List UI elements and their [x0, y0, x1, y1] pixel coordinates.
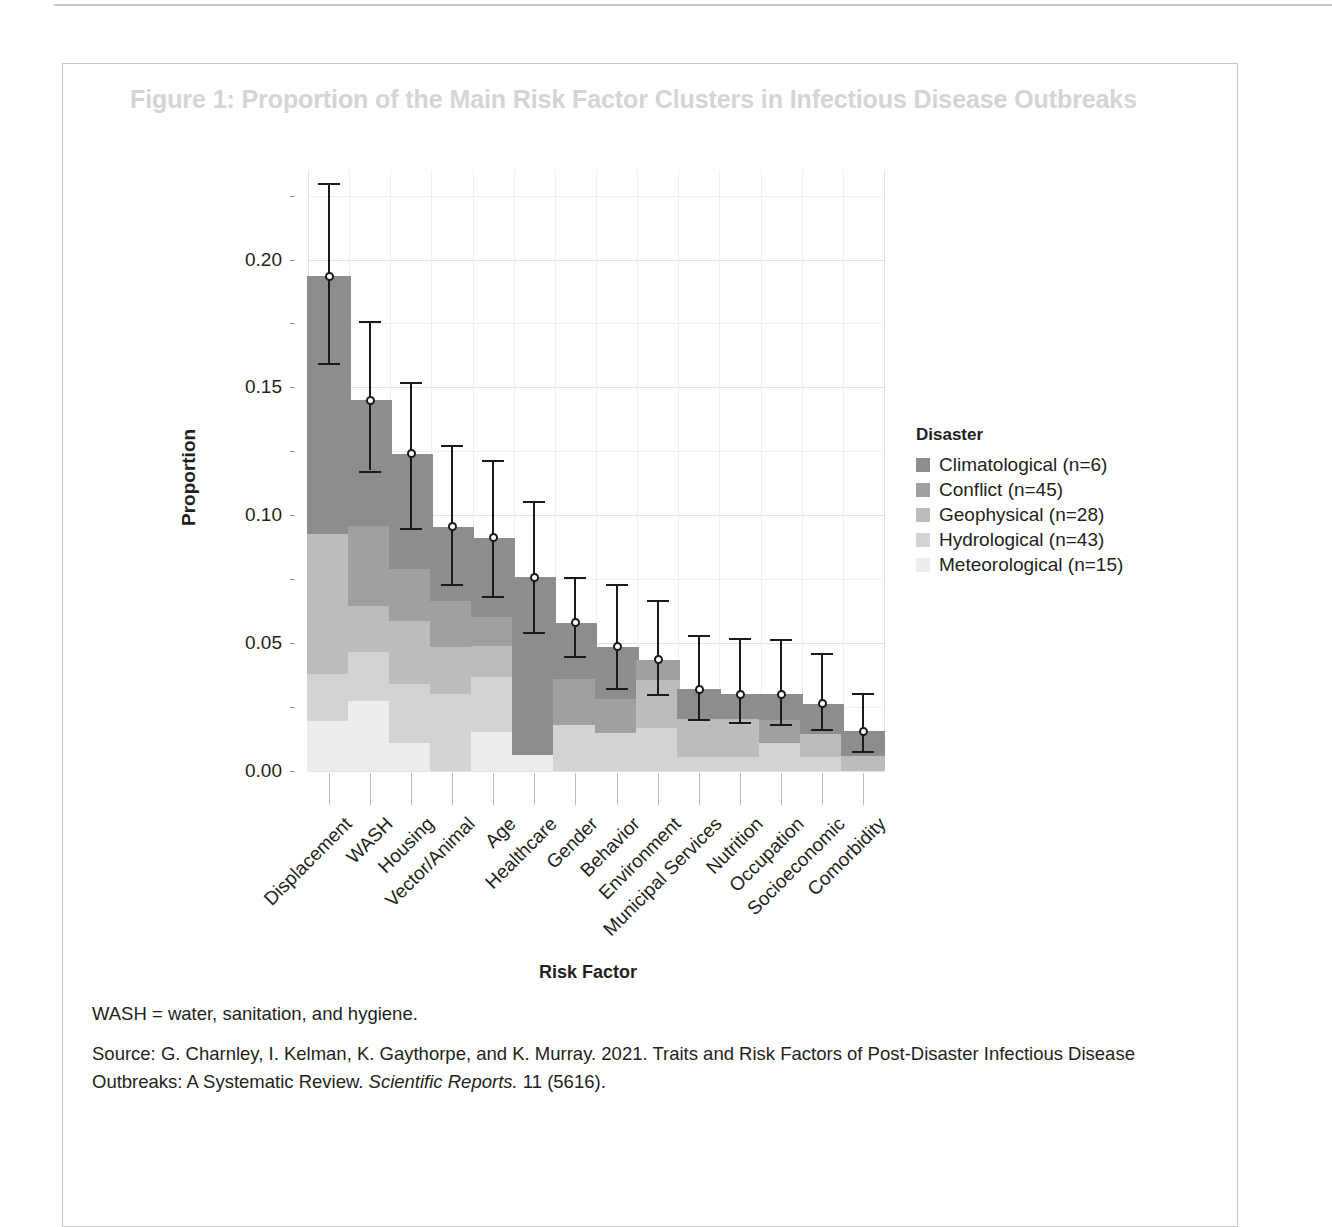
gridline-major — [308, 771, 884, 772]
y-axis-tick-mark — [290, 387, 295, 388]
x-axis-tick-mark — [822, 773, 823, 805]
bar-segment — [677, 719, 721, 757]
bar-segment — [307, 534, 351, 673]
x-axis-tick-mark — [658, 773, 659, 805]
data-point-marker — [489, 533, 498, 542]
legend-label: Meteorological (n=15) — [939, 554, 1123, 576]
bar-column[interactable] — [430, 170, 474, 771]
bar-segment — [471, 617, 515, 646]
bar-segment — [307, 721, 351, 771]
bar-segment — [471, 646, 515, 677]
bar-segment — [348, 606, 392, 652]
bar-segment — [430, 647, 474, 694]
error-bar-cap-upper — [811, 653, 833, 655]
y-axis-tick-mark — [290, 771, 295, 772]
bar-column[interactable] — [759, 170, 803, 771]
data-point-marker — [859, 727, 868, 736]
data-point-marker — [736, 690, 745, 699]
legend-item[interactable]: Conflict (n=45) — [916, 477, 1176, 502]
data-point-marker — [695, 685, 704, 694]
legend-swatch — [916, 508, 930, 522]
x-axis-tick-mark — [370, 773, 371, 805]
bar-column[interactable] — [841, 170, 885, 771]
bar-column[interactable] — [307, 170, 351, 771]
bar-segment — [800, 757, 844, 771]
legend-rows: Climatological (n=6)Conflict (n=45)Geoph… — [916, 452, 1176, 577]
legend-item[interactable]: Geophysical (n=28) — [916, 502, 1176, 527]
x-axis-tick-mark — [411, 773, 412, 805]
figure-notes: WASH = water, sanitation, and hygiene. S… — [92, 1000, 1182, 1108]
y-axis-tick-label: 0.05 — [212, 633, 282, 652]
source-journal: Scientific Reports. — [369, 1071, 518, 1092]
y-axis-tick-mark — [290, 707, 295, 708]
error-bar-cap-upper — [564, 577, 586, 579]
error-bar-cap-lower — [647, 694, 669, 696]
bar-column[interactable] — [800, 170, 844, 771]
legend-swatch — [916, 558, 930, 572]
y-axis-label: Proportion — [178, 428, 200, 525]
bar-segment — [512, 755, 556, 771]
y-axis-tick-mark — [290, 323, 295, 324]
y-axis-tick-mark — [290, 643, 295, 644]
bar-segment — [800, 734, 844, 757]
abbreviation-note: WASH = water, sanitation, and hygiene. — [92, 1000, 1182, 1029]
error-bar-cap-lower — [441, 584, 463, 586]
legend-swatch — [916, 458, 930, 472]
data-point-marker — [366, 396, 375, 405]
error-bar-cap-upper — [441, 445, 463, 447]
error-bar-cap-lower — [688, 719, 710, 721]
bar-column[interactable] — [718, 170, 762, 771]
bar-column[interactable] — [471, 170, 515, 771]
error-bar-line — [698, 635, 700, 718]
y-axis-tick-label: 0.10 — [212, 505, 282, 524]
x-axis-tick-mark — [534, 773, 535, 805]
legend-item[interactable]: Climatological (n=6) — [916, 452, 1176, 477]
bar-column[interactable] — [389, 170, 433, 771]
bar-column[interactable] — [595, 170, 639, 771]
bar-column[interactable] — [553, 170, 597, 771]
error-bar-line — [574, 577, 576, 656]
error-bar-cap-upper — [729, 638, 751, 640]
plot-bars — [308, 170, 884, 771]
bar-segment — [595, 733, 639, 771]
y-axis-tick-label: 0.00 — [212, 761, 282, 780]
figure-title: Figure 1: Proportion of the Main Risk Fa… — [130, 85, 1160, 119]
error-bar-line — [657, 600, 659, 695]
data-point-marker — [571, 618, 580, 627]
legend-label: Hydrological (n=43) — [939, 529, 1104, 551]
legend-item[interactable]: Hydrological (n=43) — [916, 527, 1176, 552]
bar-column[interactable] — [636, 170, 680, 771]
legend-label: Conflict (n=45) — [939, 479, 1063, 501]
bar-segment — [471, 732, 515, 771]
data-point-marker — [777, 690, 786, 699]
error-bar-cap-lower — [523, 632, 545, 634]
y-axis-tick-mark — [290, 196, 295, 197]
x-axis-tick-mark — [329, 773, 330, 805]
data-point-marker — [613, 642, 622, 651]
legend-item[interactable]: Meteorological (n=15) — [916, 552, 1176, 577]
legend-label: Geophysical (n=28) — [939, 504, 1104, 526]
bar-segment — [389, 621, 433, 684]
x-axis-tick-mark — [863, 773, 864, 805]
bar-column[interactable] — [512, 170, 556, 771]
top-rule — [54, 4, 1332, 6]
bar-segment — [430, 694, 474, 771]
source-text-1: Source: G. Charnley, I. Kelman, K. Gayth… — [92, 1043, 1135, 1093]
bar-column[interactable] — [677, 170, 721, 771]
x-axis-tick-mark — [781, 773, 782, 805]
bar-segment — [348, 526, 392, 607]
legend-title: Disaster — [916, 425, 1176, 445]
error-bar-line — [451, 445, 453, 584]
bar-column[interactable] — [348, 170, 392, 771]
y-axis-tick-mark — [290, 579, 295, 580]
legend-swatch — [916, 483, 930, 497]
error-bar-cap-upper — [647, 600, 669, 602]
legend-swatch — [916, 533, 930, 547]
error-bar-cap-upper — [318, 183, 340, 185]
error-bar-line — [821, 653, 823, 728]
data-point-marker — [448, 522, 457, 531]
bar-segment — [307, 674, 351, 721]
error-bar-cap-lower — [564, 656, 586, 658]
error-bar-cap-upper — [770, 639, 792, 641]
error-bar-cap-lower — [318, 363, 340, 365]
